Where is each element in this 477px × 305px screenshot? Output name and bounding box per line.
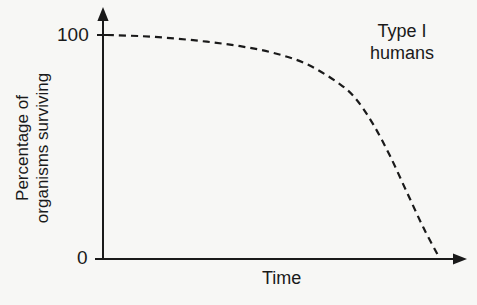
annotation-line1: Type I bbox=[362, 20, 442, 42]
y-axis-label-line2: organisms surviving bbox=[33, 63, 53, 233]
y-axis-label: Percentage of organisms surviving bbox=[13, 63, 53, 233]
annotation-line2: humans bbox=[362, 42, 442, 64]
y-tick-label-0: 0 bbox=[77, 247, 88, 269]
x-axis-label: Time bbox=[262, 268, 301, 289]
curve-annotation: Type I humans bbox=[362, 20, 442, 64]
y-axis-label-line1: Percentage of bbox=[13, 63, 33, 233]
y-tick-label-100: 100 bbox=[57, 24, 89, 46]
survivorship-curve-type-i bbox=[107, 35, 440, 259]
